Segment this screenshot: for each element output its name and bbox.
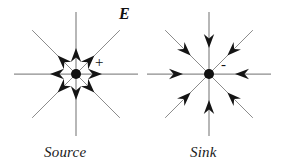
field-line bbox=[32, 74, 76, 118]
charge-point bbox=[204, 69, 214, 79]
field-symbol-label: E bbox=[119, 5, 130, 23]
sink-panel bbox=[147, 12, 271, 136]
figure-container: E + - Source Sink bbox=[0, 0, 289, 168]
negative-charge-sign: - bbox=[221, 57, 226, 72]
vector-field-diagram bbox=[0, 0, 289, 168]
caption-source: Source bbox=[44, 144, 86, 161]
positive-charge-sign: + bbox=[95, 55, 103, 70]
source-panel bbox=[14, 12, 138, 136]
charge-point bbox=[71, 69, 81, 79]
field-line bbox=[76, 74, 120, 118]
field-line bbox=[32, 30, 76, 74]
caption-sink: Sink bbox=[190, 144, 217, 161]
